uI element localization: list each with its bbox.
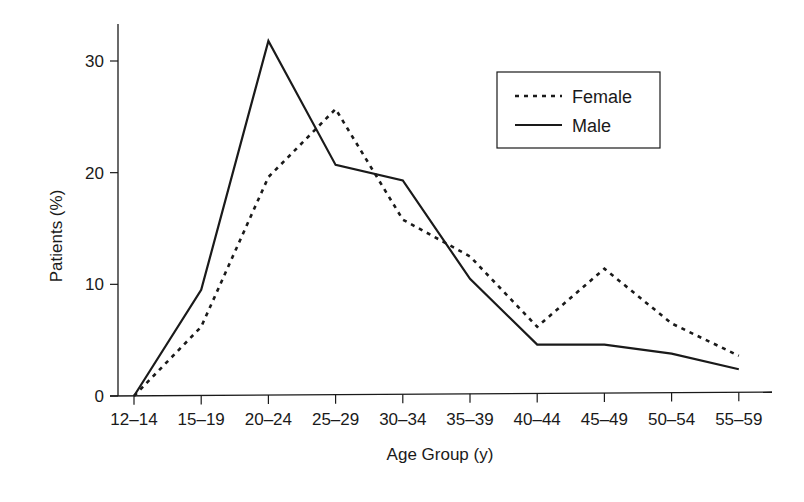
series-line-female <box>134 109 739 396</box>
x-tick-label: 50–54 <box>648 410 695 429</box>
y-tick-label: 10 <box>85 275 104 294</box>
y-tick-label: 20 <box>85 164 104 183</box>
x-tick-label: 12–14 <box>110 410 157 429</box>
x-tick-label: 55–59 <box>715 410 762 429</box>
legend-female-label: Female <box>572 87 632 107</box>
x-tick-label: 35–39 <box>446 410 493 429</box>
axes <box>110 24 772 396</box>
legend-box <box>497 72 660 148</box>
y-axis-title: Patients (%) <box>47 190 66 283</box>
x-axis-line <box>110 392 772 396</box>
x-axis-title: Age Group (y) <box>387 445 494 464</box>
line-chart: 0102030 12–1415–1920–2425–2930–3435–3940… <box>0 0 804 502</box>
y-axis-ticks: 0102030 <box>85 52 118 406</box>
legend: Female Male <box>497 72 660 148</box>
x-axis-ticks: 12–1415–1920–2425–2930–3435–3940–4445–49… <box>110 392 762 429</box>
legend-male-label: Male <box>572 116 611 136</box>
x-tick-label: 40–44 <box>514 410 561 429</box>
y-tick-label: 0 <box>95 387 104 406</box>
x-tick-label: 20–24 <box>245 410 292 429</box>
x-tick-label: 15–19 <box>178 410 225 429</box>
y-tick-label: 30 <box>85 52 104 71</box>
x-tick-label: 30–34 <box>379 410 426 429</box>
x-tick-label: 45–49 <box>581 410 628 429</box>
x-tick-label: 25–29 <box>312 410 359 429</box>
